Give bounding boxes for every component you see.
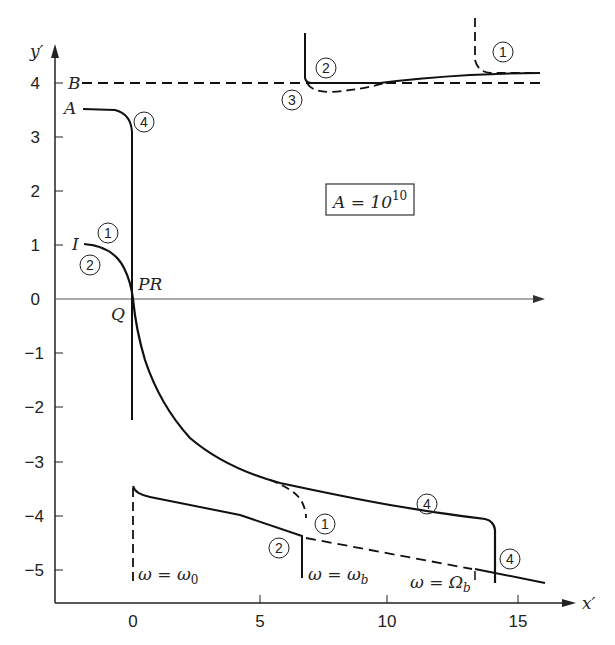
y-tick-neg1: −1 — [25, 344, 44, 363]
marker-4-upper-text: 4 — [140, 114, 148, 130]
curves — [82, 18, 545, 583]
curve-3-top — [307, 83, 385, 92]
y-axis-label: y′ — [29, 41, 44, 61]
y-tick-4: 4 — [31, 74, 40, 93]
marker-4-lower-text: 4 — [506, 551, 514, 567]
marker-1-bottom-text: 1 — [321, 516, 329, 532]
zero-line-arrow-icon — [533, 295, 545, 303]
label-pr: PR — [137, 274, 162, 294]
label-omegab: ω = ωb — [308, 564, 368, 587]
label-i: I — [71, 234, 79, 254]
label-a: A — [62, 98, 76, 118]
marker-4-mid-text: 4 — [423, 496, 431, 512]
y-tick-2: 2 — [31, 182, 40, 201]
x-tick-5: 5 — [255, 612, 264, 631]
y-tick-neg3: −3 — [25, 453, 44, 472]
y-tick-labels: 4 3 2 1 0 −1 −2 −3 −4 −5 — [25, 74, 44, 580]
curve-marker-labels: 4 1 2 2 3 1 1 2 4 4 — [86, 44, 514, 567]
marker-1-top-text: 1 — [499, 44, 507, 60]
marker-2-left-text: 2 — [86, 257, 94, 273]
marker-2-bottom-text: 2 — [275, 540, 283, 556]
y-tick-3: 3 — [31, 128, 40, 147]
y-tick-neg5: −5 — [25, 561, 44, 580]
curve-1-top — [475, 18, 540, 73]
label-omega0: ω = ω0 — [138, 564, 198, 587]
x-tick-10: 10 — [378, 612, 397, 631]
axes — [51, 44, 576, 607]
x-tick-0: 0 — [128, 612, 137, 631]
label-Omegab: ω = Ωb — [410, 572, 471, 595]
label-b: B — [67, 73, 81, 93]
x-axis-label: x′ — [582, 593, 596, 613]
x-tick-labels: 0 5 10 15 — [128, 612, 527, 631]
x-tick-15: 15 — [509, 612, 528, 631]
curve-4-lower — [475, 569, 545, 583]
marker-2-top-text: 2 — [322, 60, 330, 76]
y-tick-1: 1 — [31, 236, 40, 255]
y-axis-arrow-icon — [51, 44, 59, 58]
label-q: Q — [111, 304, 125, 324]
chart: 4 3 2 1 0 −1 −2 −3 −4 −5 0 5 10 15 y′ x′ — [0, 0, 615, 645]
y-tick-neg4: −4 — [25, 507, 44, 526]
y-tick-0: 0 — [31, 290, 40, 309]
x-axis-arrow-icon — [562, 599, 576, 607]
marker-3-top-text: 3 — [288, 92, 296, 108]
marker-1-left-text: 1 — [104, 225, 112, 241]
y-tick-neg2: −2 — [25, 398, 44, 417]
